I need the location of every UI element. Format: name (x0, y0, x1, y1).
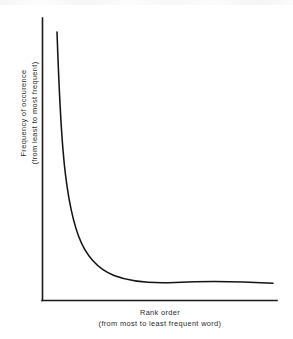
zipf-figure: Frequency of occurence (from least to mo… (0, 0, 293, 339)
zipf-distribution-curve (57, 32, 273, 283)
plot-canvas (0, 0, 293, 339)
